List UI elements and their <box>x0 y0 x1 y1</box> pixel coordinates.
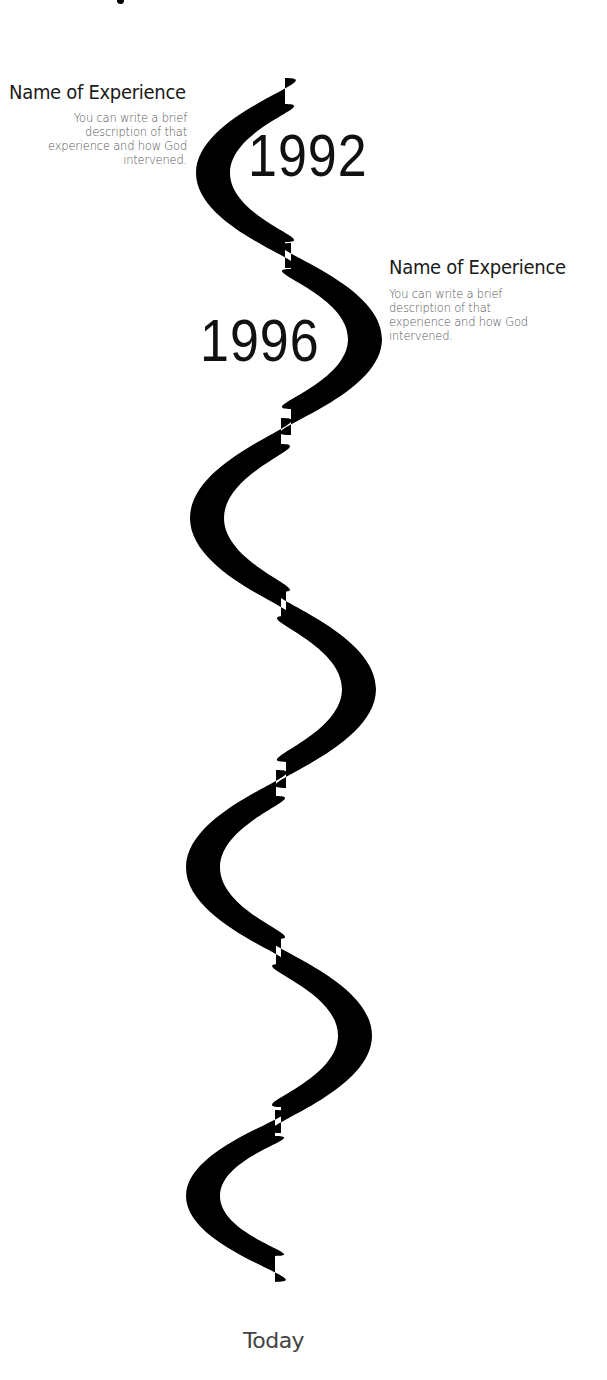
event-2-desc-line: intervened. <box>389 329 589 343</box>
event-1-title: Name of Experience <box>9 80 186 104</box>
timeline-segment <box>186 770 287 965</box>
event-2-description: You can write a brief description of tha… <box>389 287 589 343</box>
timeline-snake <box>0 0 607 1380</box>
event-2-desc-line: experience and how God <box>389 315 589 329</box>
event-1-desc-line: You can write a brief <box>7 111 187 125</box>
event-1-description: You can write a brief description of tha… <box>7 111 187 167</box>
timeline-segment <box>275 590 376 788</box>
event-1-desc-line: description of that <box>7 125 187 139</box>
timeline-segment <box>270 938 372 1133</box>
event-2-desc-line: description of that <box>389 301 589 315</box>
event-1-desc-line: experience and how God <box>7 139 187 153</box>
event-2-year: 1996 <box>200 310 320 370</box>
event-2-desc-line: You can write a brief <box>389 287 589 301</box>
timeline-end-label: Today <box>243 1328 304 1353</box>
event-2-title: Name of Experience <box>389 255 566 279</box>
timeline-segment <box>186 1110 286 1282</box>
timeline-segment <box>190 418 292 618</box>
event-1-year: 1992 <box>248 125 368 185</box>
event-1-desc-line: intervened. <box>7 153 187 167</box>
